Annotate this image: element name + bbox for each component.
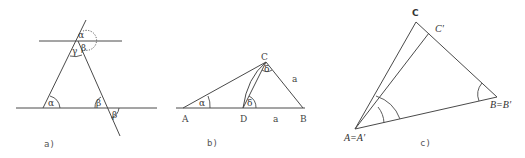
angle-label-delta-C: δ (264, 64, 269, 74)
angle-label-gamma-top: γ (72, 46, 77, 56)
point-label-C: C (412, 8, 419, 18)
angle-label-alpha-top: α (78, 30, 84, 40)
point-label-C: C (261, 52, 268, 62)
side-AC (183, 62, 266, 108)
point-label-A: A=A′ (343, 132, 366, 143)
angle-label-beta-bottom: β (96, 98, 101, 108)
angle-label-alpha-bottom: α (48, 98, 54, 108)
side-label-DB: a (273, 114, 279, 124)
angle-label-beta-lower: β (112, 110, 117, 120)
point-label-C-prime: C′ (435, 23, 445, 34)
angle-arc-B (478, 83, 482, 101)
point-label-D: D (240, 114, 247, 124)
panel-a: α β γ α β β a) (16, 20, 157, 149)
angle-label-alpha: α (199, 98, 205, 108)
point-label-B: B=B′ (490, 99, 512, 110)
caption-c: c) (420, 138, 431, 148)
geometry-figure: α β γ α β β a) α δ δ C A D B a a b) (0, 0, 525, 158)
angle-label-delta-D: δ (247, 98, 252, 108)
caption-b: b) (207, 138, 218, 148)
panel-b: α δ δ C A D B a a b) (176, 52, 307, 148)
side-AC (355, 22, 416, 129)
side-CB (266, 62, 303, 108)
caption-a: a) (44, 139, 55, 149)
side-label-CB: a (292, 74, 298, 84)
point-label-B: B (300, 114, 307, 124)
panel-c: C C′ A=A′ B=B′ c) (343, 8, 512, 148)
angle-arc-outer-A (376, 96, 400, 119)
side-CB (416, 22, 497, 97)
alpha-arc (208, 96, 210, 108)
point-label-A: A (181, 114, 189, 124)
right-transversal (78, 41, 120, 136)
angle-label-beta-top: β (81, 43, 86, 53)
angle-arc-inner-A (378, 107, 384, 123)
